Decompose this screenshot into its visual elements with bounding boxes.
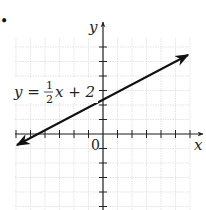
x-axis-label: x [194, 136, 203, 154]
graph: • y x 0 y = 1 2 x + 2 [0, 0, 206, 210]
equation-frac-num: 1 [46, 79, 53, 92]
origin-label: 0 [91, 137, 100, 153]
equation-lhs: y = [13, 83, 40, 101]
equation-rhs: x + 2 [55, 83, 95, 101]
equation-label: y = 1 2 x + 2 [12, 77, 98, 106]
y-axis-label: y [88, 18, 98, 36]
bullet: • [0, 13, 8, 29]
equation-frac-den: 2 [46, 93, 53, 106]
